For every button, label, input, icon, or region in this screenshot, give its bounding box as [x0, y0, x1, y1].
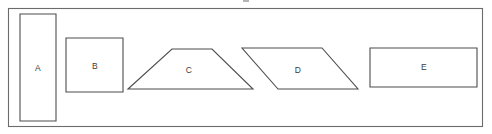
- shape-d-label: D: [295, 65, 301, 75]
- shape-e-group[interactable]: E: [370, 48, 477, 87]
- shape-b-group[interactable]: B: [66, 38, 123, 92]
- shape-c-group[interactable]: C: [128, 49, 253, 89]
- top-artifact-mark: [243, 0, 249, 2]
- shape-e-label: E: [421, 62, 427, 72]
- shape-b-label: B: [92, 61, 98, 71]
- shape-a-label: A: [35, 63, 41, 73]
- diagram-canvas: A B C D E: [0, 0, 492, 134]
- shape-d-group[interactable]: D: [242, 48, 358, 89]
- shapes-diagram: A B C D E: [0, 0, 492, 134]
- shape-c-label: C: [186, 65, 192, 75]
- shape-a-group[interactable]: A: [20, 14, 56, 121]
